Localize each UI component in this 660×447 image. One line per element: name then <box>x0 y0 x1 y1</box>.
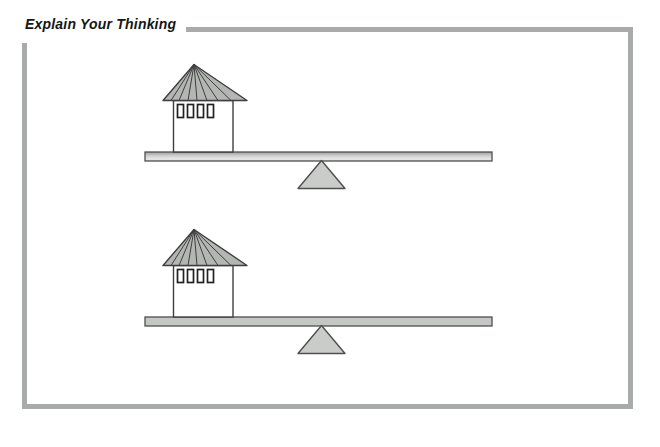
fulcrum-triangle <box>298 326 345 354</box>
plank <box>145 317 492 326</box>
worksheet-page: Explain Your Thinking <box>0 0 660 447</box>
figure-canvas <box>0 0 660 447</box>
frame-border-left <box>22 43 27 404</box>
frame-border-top <box>186 27 633 32</box>
seesaw-bottom <box>145 230 492 354</box>
tower <box>163 65 247 153</box>
fulcrum-triangle <box>298 161 345 189</box>
tower <box>163 230 247 318</box>
plank <box>145 152 492 161</box>
frame-border-bottom <box>22 404 633 409</box>
seesaw-top <box>145 65 492 189</box>
frame-border-right <box>628 27 633 409</box>
